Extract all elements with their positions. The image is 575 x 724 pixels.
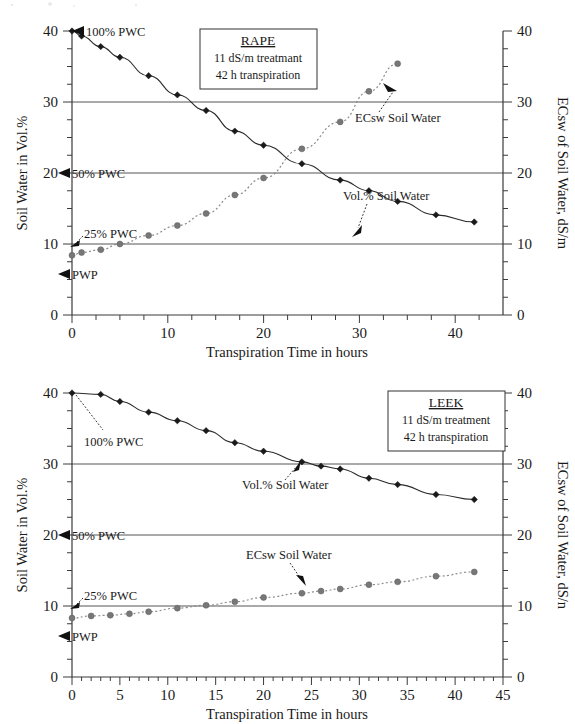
- rape-info-box: RAPE 11 dS/m treatmant 42 h transpiratio…: [200, 29, 317, 89]
- rape-ytick-20: 20: [43, 165, 58, 181]
- data-point-marker: [203, 427, 209, 433]
- leek-label-25-pwc: 25% PWC: [84, 589, 137, 603]
- rape-box-line-2: 42 h transpiration: [216, 68, 301, 82]
- rape-ytick-40: 40: [43, 23, 58, 39]
- leek-xlabel: Transpiration Time in hours: [206, 706, 368, 722]
- leek-xtick-45: 45: [496, 687, 511, 703]
- data-point-marker: [337, 177, 343, 183]
- data-point-marker: [117, 54, 123, 60]
- data-point-marker: [203, 210, 209, 216]
- data-point-marker: [107, 612, 113, 618]
- rape-ytick-0: 0: [51, 307, 59, 323]
- chart-panel-leek: 40 30 20 10 0 Soil Water in Vol.%: [0, 362, 575, 724]
- leek-info-box: LEEK 11 dS/m treatment 42 h transpiratio…: [388, 391, 505, 451]
- data-point-marker: [318, 588, 324, 594]
- rape-vol-leader: [358, 204, 367, 228]
- data-point-marker: [433, 491, 439, 497]
- leek-ytick-right-0: 0: [517, 669, 525, 685]
- leek-xtick-20: 20: [256, 687, 271, 703]
- rape-xtick-20: 20: [256, 325, 271, 341]
- leek-ytick-30: 30: [43, 456, 58, 472]
- data-point-marker: [337, 466, 343, 472]
- data-point-marker: [471, 219, 477, 225]
- leek-xtick-0: 0: [68, 687, 76, 703]
- data-point-marker: [69, 615, 75, 621]
- data-point-marker: [232, 128, 238, 134]
- leek-xtick-5: 5: [116, 687, 124, 703]
- rape-ytick-right-10: 10: [517, 236, 532, 252]
- data-point-marker: [261, 175, 267, 181]
- rape-label-ecsw-series: ECsw Soil Water: [355, 111, 441, 125]
- data-point-marker: [337, 119, 343, 125]
- leek-ytick-40: 40: [43, 385, 58, 401]
- leek-xtick-15: 15: [208, 687, 223, 703]
- data-point-marker: [146, 232, 152, 238]
- data-point-marker: [366, 475, 372, 481]
- data-point-marker: [203, 107, 209, 113]
- rape-label-vol-series: Vol.% Soil Water: [343, 189, 430, 203]
- data-point-marker: [174, 417, 180, 423]
- data-point-marker: [203, 602, 209, 608]
- rape-ytick-right-0: 0: [517, 307, 525, 323]
- rape-vol-arrow-icon: [352, 225, 362, 237]
- rape-label-pwp: PWP: [72, 268, 98, 282]
- leek-xtick-30: 30: [352, 687, 367, 703]
- rape-ytick-right-20: 20: [517, 165, 532, 181]
- leek-x-axis: 051015202530354045 Transpiration Time in…: [68, 677, 510, 722]
- data-point-marker: [69, 390, 75, 396]
- data-point-marker: [260, 448, 266, 454]
- leek-ylabel-right: ECsw of Soil Water, dS/n: [555, 461, 571, 610]
- data-point-marker: [471, 569, 477, 575]
- data-point-marker: [69, 252, 75, 258]
- rape-box-title: RAPE: [241, 33, 276, 48]
- data-point-marker: [366, 88, 372, 94]
- data-point-marker: [88, 613, 94, 619]
- rape-ytick-right-30: 30: [517, 94, 532, 110]
- leek-ytick-right-30: 30: [517, 456, 532, 472]
- rape-xtick-30: 30: [352, 325, 367, 341]
- rape-ytick-right-40: 40: [517, 23, 532, 39]
- data-point-marker: [299, 161, 305, 167]
- leek-box-title: LEEK: [429, 395, 464, 410]
- rape-ylabel-left: Soil Water in Vol.%: [14, 116, 30, 231]
- data-point-marker: [337, 586, 343, 592]
- rape-ytick-10: 10: [43, 236, 58, 252]
- chart-panel-rape: 40 30 20 10 0 Soil Water in Vol.%: [0, 0, 575, 362]
- data-point-marker: [366, 582, 372, 588]
- leek-xtick-10: 10: [160, 687, 175, 703]
- leek-label-50-pwc: 50% PWC: [72, 529, 125, 543]
- data-point-marker: [174, 92, 180, 98]
- data-point-marker: [232, 192, 238, 198]
- data-point-marker: [146, 609, 152, 615]
- data-point-marker: [232, 599, 238, 605]
- rape-box-line-1: 11 dS/m treatmant: [214, 51, 303, 65]
- data-point-marker: [174, 605, 180, 611]
- leek-ytick-20: 20: [43, 527, 58, 543]
- rape-label-25-pwc: 25% PWC: [84, 227, 137, 241]
- rape-pwp-triangle-icon: [58, 269, 70, 279]
- leek-xtick-40: 40: [448, 687, 463, 703]
- data-point-marker: [433, 573, 439, 579]
- rape-xtick-40: 40: [448, 325, 463, 341]
- leek-box-line-2: 42 h transpiration: [404, 430, 489, 444]
- rape-ecsw-arrow-icon: [383, 83, 397, 92]
- data-point-marker: [299, 146, 305, 152]
- data-point-marker: [433, 212, 439, 218]
- data-point-marker: [117, 241, 123, 247]
- leek-ylabel-left: Soil Water in Vol.%: [14, 478, 30, 593]
- figure-two-panel-soil-water: 40 30 20 10 0 Soil Water in Vol.%: [0, 0, 575, 724]
- leek-ytick-0: 0: [51, 669, 59, 685]
- rape-xtick-0: 0: [68, 325, 76, 341]
- leek-label-pwp: PWP: [72, 630, 98, 644]
- leek-ecsw-arrow-icon: [296, 575, 306, 586]
- data-point-marker: [261, 594, 267, 600]
- data-point-marker: [79, 250, 85, 256]
- leek-xtick-25: 25: [304, 687, 319, 703]
- rape-pwc50-triangle-icon: [58, 168, 70, 178]
- leek-pwc100-leader: [76, 395, 103, 430]
- leek-box-line-1: 11 dS/m treatment: [402, 413, 491, 427]
- rape-ylabel-right: ECsw of Soil Water, dS/m: [555, 97, 571, 250]
- leek-chart-svg: 40 30 20 10 0 Soil Water in Vol.%: [0, 362, 575, 724]
- data-point-marker: [98, 247, 104, 253]
- rape-ytick-30: 30: [43, 94, 58, 110]
